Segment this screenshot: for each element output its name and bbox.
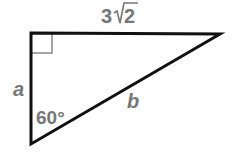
top-side-radicand: 2 (124, 5, 135, 27)
right-triangle-diagram: 3 2 a 60° b (0, 0, 233, 153)
right-angle-marker (32, 34, 52, 53)
hypotenuse-label: b (127, 90, 139, 112)
top-side-label: 3 2 (101, 3, 138, 27)
angle-label: 60° (36, 107, 65, 128)
top-side-coefficient: 3 (101, 5, 112, 27)
left-side-label: a (13, 78, 24, 100)
